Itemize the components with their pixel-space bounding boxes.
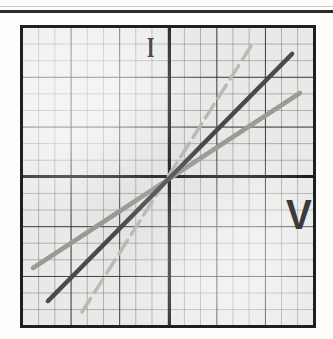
plot-inner: I V — [23, 28, 313, 325]
header-rule — [0, 10, 333, 13]
y-axis-label: I — [147, 32, 154, 62]
iv-characteristic-plot: I V — [20, 25, 316, 328]
x-axis-label: V — [286, 194, 312, 236]
line-middle-solid-dark — [48, 54, 292, 301]
header-hairline — [0, 6, 333, 7]
page-background: I V — [0, 0, 333, 339]
data-lines — [23, 28, 313, 325]
